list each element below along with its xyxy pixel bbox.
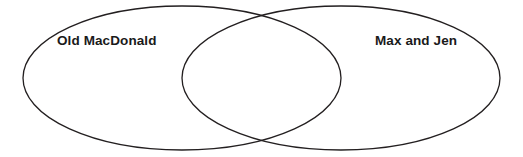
venn-label-left: Old MacDonald [57,34,157,48]
venn-diagram: Old MacDonald Max and Jen [0,0,523,157]
venn-diagram-canvas [0,0,523,157]
venn-label-right: Max and Jen [375,34,457,48]
